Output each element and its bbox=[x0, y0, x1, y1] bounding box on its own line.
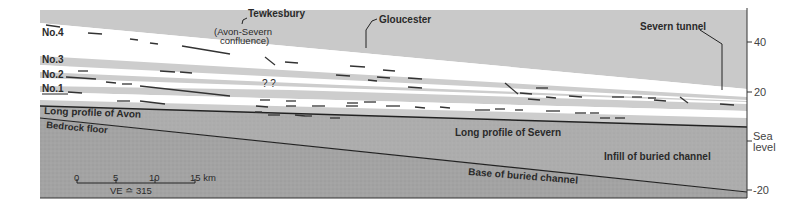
scale-tick-5: 5 bbox=[113, 172, 118, 183]
place-label-gloucester: Gloucester bbox=[379, 14, 431, 25]
river-profile-diagram: No.4 No.3 No.2 No.1 Tewkesbury (Avon-Sev… bbox=[0, 0, 803, 208]
label-severn-profile: Long profile of Severn bbox=[455, 127, 561, 138]
axis-tick-20: 20 bbox=[754, 86, 766, 98]
scale-tick-0: 0 bbox=[74, 172, 79, 183]
place-label-severn-tunnel: Severn tunnel bbox=[640, 21, 706, 32]
vertical-exaggeration-label: VE ≏ 315 bbox=[110, 185, 152, 196]
place-label-confluence-2: confluence) bbox=[220, 35, 269, 46]
terrace-label-no3: No.3 bbox=[42, 54, 64, 65]
axis-tick-40: 40 bbox=[754, 36, 766, 48]
uncertain-marks: ? ? bbox=[262, 78, 276, 89]
terrace-label-no2: No.2 bbox=[42, 69, 64, 80]
place-label-tewkesbury: Tewkesbury bbox=[248, 8, 305, 19]
elevation-axis: 40 20 Sea level -20 bbox=[747, 36, 776, 196]
terrace-label-no1: No.1 bbox=[42, 83, 64, 94]
axis-tick-minus-20: -20 bbox=[753, 184, 769, 196]
label-infill: Infill of buried channel bbox=[604, 151, 711, 162]
axis-tick-sea-level-2: level bbox=[753, 141, 776, 153]
scale-tick-10: 10 bbox=[149, 172, 160, 183]
scale-tick-15km: 15 km bbox=[190, 172, 216, 183]
terrace-label-no4: No.4 bbox=[42, 27, 64, 38]
